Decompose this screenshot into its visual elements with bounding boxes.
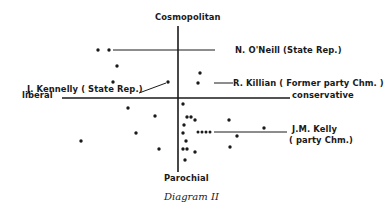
label-oneill: N. O'Neill (State Rep.)	[235, 45, 342, 55]
axis-label-conservative: conservative	[292, 90, 354, 100]
kennelly-leader	[139, 83, 166, 93]
axis-label-parochial: Parochial	[164, 173, 209, 183]
diagram-caption: Diagram II	[164, 191, 219, 202]
data-points	[79, 48, 265, 161]
label-kelly-line2: ( party Chm.)	[289, 135, 353, 145]
label-kennelly: J. Kennelly ( State Rep.)	[27, 84, 143, 94]
label-killian: R. Killian ( Former party Chm. )	[233, 78, 384, 88]
label-kelly-line1: J.M. Kelly	[292, 124, 337, 134]
axis-label-cosmopolitan: Cosmopolitan	[155, 12, 221, 22]
